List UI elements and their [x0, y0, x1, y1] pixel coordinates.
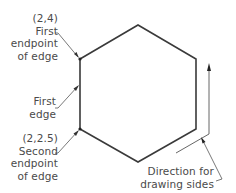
- direction-line2: drawing sides: [140, 178, 214, 191]
- first-endpoint-coords: (2,4): [11, 12, 58, 25]
- label-second-endpoint: (2,2.5) Second endpoint of edge: [11, 132, 58, 182]
- arrowhead-direction-icon: [201, 137, 206, 144]
- first-endpoint-line1: First: [11, 25, 58, 38]
- first-endpoint-line3: of edge: [11, 50, 58, 63]
- direction-line1: Direction for: [140, 165, 214, 178]
- second-endpoint-line2: endpoint: [11, 157, 58, 170]
- first-edge-line1: First: [29, 95, 56, 108]
- direction-arrowhead-icon: [207, 63, 211, 71]
- leader-first-endpoint: [55, 33, 78, 57]
- hexagon-shape: [80, 25, 196, 162]
- first-endpoint-line2: endpoint: [11, 37, 58, 50]
- label-first-endpoint: (2,4) First endpoint of edge: [11, 12, 58, 62]
- direction-arrow: [176, 68, 209, 153]
- label-direction: Direction for drawing sides: [140, 165, 214, 190]
- second-endpoint-line1: Second: [11, 145, 58, 158]
- label-first-edge: First edge: [29, 95, 56, 120]
- second-endpoint-coords: (2,2.5): [11, 132, 58, 145]
- first-edge-line2: edge: [29, 108, 56, 121]
- second-endpoint-line3: of edge: [11, 170, 58, 183]
